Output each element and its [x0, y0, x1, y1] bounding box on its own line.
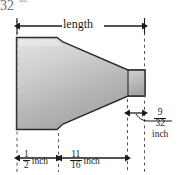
part-body-group [17, 38, 146, 130]
half-inch-fraction: 1 2 [23, 150, 30, 171]
figure-container: length 1 2 inch 11 16 inch 9 32 inch 32 … [0, 0, 177, 175]
nine-thirtyseconds-denominator: 32 [154, 119, 166, 129]
nine-thirtyseconds-unit: inch [152, 129, 168, 140]
neck-shading [128, 70, 145, 96]
half-inch-label: 1 2 inch [23, 150, 48, 171]
eleven-sixteenths-fraction: 11 16 [70, 150, 82, 171]
eleven-sixteenths-denominator: 16 [70, 161, 82, 171]
part-outline [17, 38, 146, 130]
half-inch-unit: inch [30, 157, 48, 167]
body-highlight [19, 40, 62, 46]
eleven-sixteenths-unit: inch [82, 157, 100, 167]
nine-thirtyseconds-label: 9 32 inch [152, 108, 168, 139]
length-label: length [63, 18, 93, 30]
nine-thirtyseconds-fraction: 9 32 [154, 108, 166, 129]
half-inch-denominator: 2 [23, 161, 30, 171]
page-bleed-number: 32 [0, 0, 14, 13]
page-bleed-unit: in. [19, 0, 28, 4]
eleven-sixteenths-label: 11 16 inch [70, 150, 100, 171]
